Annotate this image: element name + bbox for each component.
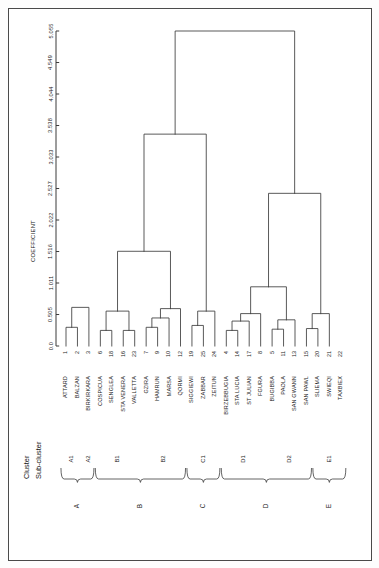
cluster-brace	[61, 468, 94, 482]
leaf-number: 7	[143, 351, 149, 354]
coefficient-axis: 0.00.5051.0111.5162.0222.5273.0333.5384.…	[30, 24, 59, 351]
leaf-name: VALLETTA	[131, 376, 137, 404]
leaf-number: 19	[188, 351, 194, 357]
leaf-name: SIGGIEWI	[188, 376, 194, 403]
dendrogram-link	[175, 31, 295, 193]
dendrogram-link	[192, 325, 203, 346]
cluster-label: B	[136, 504, 143, 508]
dendrogram-link	[66, 327, 77, 346]
leaf-name: SAN GWANN	[291, 376, 297, 411]
cluster-header: Cluster	[22, 455, 31, 479]
leaf-name-labels: ATTARDBALZANBIRKIRKARACOSPICUASENGLEASTA…	[62, 376, 343, 415]
leaf-number: 1	[62, 351, 68, 354]
dendrogram-link	[272, 329, 283, 346]
dendrogram-link	[241, 314, 261, 346]
leaf-number: 14	[234, 351, 240, 357]
subcluster-label: B2	[160, 455, 166, 462]
leaf-number: 22	[337, 351, 343, 357]
axis-tick-label: 1.516	[48, 244, 54, 259]
axis-tick-label: 4.549	[48, 55, 54, 70]
dendrogram-link	[146, 327, 157, 346]
leaf-name: BALZAN	[74, 376, 80, 398]
leaf-number: 21	[326, 351, 332, 357]
dendrogram-link	[251, 287, 287, 320]
leaf-number: 10	[165, 351, 171, 357]
subcluster-label: A2	[85, 455, 91, 462]
leaf-name: STA VENERA	[120, 376, 126, 412]
leaf-name: GZIRA	[143, 376, 149, 394]
dendrogram-link	[278, 320, 295, 346]
subcluster-labels: A1A2B1B2C1D1D2E1	[68, 455, 332, 462]
leaf-name: HAMRUN	[154, 376, 160, 401]
subcluster-label: D1	[240, 455, 246, 462]
axis-tick-label: 4.044	[48, 87, 54, 102]
axis-tick-label: 2.022	[48, 213, 54, 228]
dendrogram-link	[152, 318, 169, 346]
cluster-brace	[187, 468, 220, 482]
leaf-number: 2	[74, 351, 80, 354]
subcluster-label: C1	[200, 455, 206, 462]
leaf-name: SWIEQI	[326, 376, 332, 397]
leaf-name: BIRZEBBUGIA	[223, 376, 229, 415]
dendrogram-links	[66, 31, 329, 346]
cluster-brace	[313, 468, 346, 482]
leaf-name: ZABBAR	[200, 376, 206, 399]
axis-tick-label: 5.055	[48, 24, 54, 39]
cluster-label: E	[325, 504, 332, 508]
axis-tick-label: 3.538	[48, 118, 54, 133]
leaf-name: SENGLEA	[108, 376, 114, 403]
leaf-name: SLIEMA	[314, 376, 320, 397]
leaf-name: BIRKIRKARA	[85, 376, 91, 411]
dendrogram-link	[123, 330, 134, 346]
leaf-name: PAOLA	[280, 376, 286, 395]
leaf-name: STA LUCIA	[234, 376, 240, 405]
leaf-name: MARSA	[166, 376, 172, 396]
dendrogram-link	[106, 311, 129, 330]
leaf-number: 16	[120, 351, 126, 357]
leaf-number: 12	[177, 351, 183, 357]
dendrogram-link	[160, 309, 180, 346]
leaf-number: 8	[257, 351, 263, 354]
cluster-brace	[95, 468, 185, 482]
cluster-label: C	[199, 503, 206, 508]
axis-tick-label: 0.0	[48, 342, 54, 350]
cluster-brace	[221, 468, 311, 482]
leaf-number: 3	[85, 351, 91, 354]
leaf-name: FGURA	[257, 376, 263, 396]
dendrogram-link	[226, 330, 237, 346]
leaf-name: ZEITUN	[211, 376, 217, 397]
leaf-name: SAN PAWL	[303, 376, 309, 405]
axis-tick-label: 2.527	[48, 181, 54, 196]
dendrogram-link	[144, 134, 206, 311]
dendrogram-page: ClusterSub-cluster 0.00.5051.0111.5162.0…	[0, 0, 379, 568]
leaf-number: 15	[303, 351, 309, 357]
leaf-number: 25	[200, 351, 206, 357]
leaf-name: COSPICUA	[97, 376, 103, 406]
cluster-label: A	[73, 503, 80, 508]
header-labels: ClusterSub-cluster	[22, 441, 43, 479]
leaf-number: 4	[223, 351, 229, 354]
subcluster-label: D2	[286, 455, 292, 462]
leaf-name: QORMI	[177, 376, 183, 396]
cluster-labels: ABCDE	[61, 468, 346, 508]
leaf-name: TAXBIEX	[337, 376, 343, 400]
leaf-number: 18	[108, 351, 114, 357]
dendrogram-link	[306, 329, 317, 346]
cluster-label: D	[262, 503, 269, 508]
dendrogram-link	[312, 314, 329, 346]
leaf-number: 9	[154, 351, 160, 354]
axis-title: COEFFICIENT	[30, 220, 36, 262]
leaf-number: 24	[211, 351, 217, 357]
dendrogram-link	[100, 330, 111, 346]
leaf-number-labels: 1236181623791012192524414178511131520212…	[62, 351, 343, 357]
leaf-number: 17	[246, 351, 252, 357]
axis-tick-label: 1.011	[48, 276, 54, 291]
subcluster-header: Sub-cluster	[34, 441, 43, 479]
subcluster-label: B1	[114, 455, 120, 462]
dendrogram-link	[72, 307, 89, 346]
leaf-number: 5	[269, 351, 275, 354]
leaf-name: ATTARD	[62, 376, 68, 398]
leaf-number: 11	[280, 351, 286, 357]
axis-tick-label: 3.033	[48, 150, 54, 165]
leaf-number: 20	[314, 351, 320, 357]
